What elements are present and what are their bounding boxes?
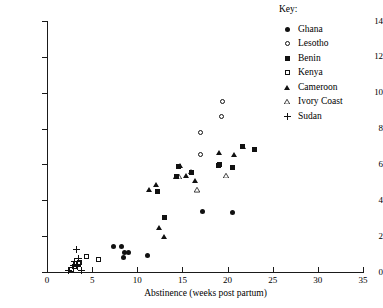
x-tick-label: 10	[124, 276, 150, 285]
legend-item-label: Ivory Coast	[298, 96, 343, 107]
legend-item-kenya[interactable]: Kenya	[280, 66, 383, 81]
data-point-kenya	[84, 254, 89, 259]
data-point-benin	[155, 189, 160, 194]
x-axis-label: Abstinence (weeks post partum)	[47, 288, 364, 299]
legend-item-label: Lesotho	[298, 38, 329, 49]
data-point-benin	[217, 162, 222, 167]
data-point-lesotho	[220, 99, 225, 104]
cropped-title-remnant	[55, 0, 245, 3]
x-tick-label: 20	[215, 276, 241, 285]
legend-item-lesotho[interactable]: Lesotho	[280, 37, 383, 52]
x-tick-label: 35	[350, 276, 376, 285]
data-point-cameroon	[216, 150, 222, 155]
data-point-ghana	[111, 244, 116, 249]
data-point-ghana	[126, 250, 131, 255]
data-point-lesotho	[198, 130, 203, 135]
x-tick-label: 25	[260, 276, 286, 285]
open-triangle-icon	[280, 99, 294, 104]
data-point-cameroon	[192, 178, 198, 183]
y-tick-mark	[42, 272, 47, 273]
legend-item-label: Sudan	[298, 111, 322, 122]
legend-item-benin[interactable]: Benin	[280, 51, 383, 66]
data-point-ivory-coast	[223, 173, 229, 178]
legend-item-ghana[interactable]: Ghana	[280, 22, 383, 37]
legend-item-label: Ghana	[298, 24, 323, 35]
data-point-ghana	[119, 244, 124, 249]
legend-item-label: Kenya	[298, 67, 323, 78]
data-point-cameroon	[188, 169, 194, 174]
x-tick-label: 0	[34, 276, 60, 285]
legend-item-sudan[interactable]: Sudan	[280, 109, 383, 124]
plus-icon	[280, 113, 294, 120]
open-circle-icon	[280, 41, 294, 46]
data-point-ghana	[145, 253, 150, 258]
legend: Key: GhanaLesothoBeninKenyaCameroonIvory…	[280, 4, 383, 124]
legend-title: Key:	[279, 4, 383, 15]
x-tick-label: 30	[305, 276, 331, 285]
data-point-ivory-coast	[176, 174, 182, 179]
data-point-benin	[162, 215, 167, 220]
data-point-cameroon	[177, 163, 183, 168]
filled-triangle-icon	[280, 85, 294, 90]
data-point-cameroon	[146, 187, 152, 192]
data-point-sudan	[73, 246, 80, 253]
data-point-benin	[252, 147, 257, 152]
data-point-kenya	[96, 257, 101, 262]
data-point-sudan	[78, 267, 85, 274]
x-tick-label: 5	[79, 276, 105, 285]
x-tick-label: 15	[169, 276, 195, 285]
data-point-ghana	[230, 210, 235, 215]
data-point-ghana	[121, 255, 126, 260]
data-point-cameroon	[231, 152, 237, 157]
legend-item-ivory-coast[interactable]: Ivory Coast	[280, 95, 383, 110]
legend-item-label: Benin	[298, 53, 321, 64]
filled-circle-icon	[280, 27, 294, 32]
filled-square-icon	[280, 56, 294, 61]
data-point-ghana	[200, 209, 205, 214]
data-point-cameroon	[240, 144, 246, 149]
data-point-cameroon	[156, 225, 162, 230]
legend-item-cameroon[interactable]: Cameroon	[280, 80, 383, 95]
x-tick-mark	[363, 267, 364, 272]
data-point-cameroon	[161, 234, 167, 239]
data-point-ivory-coast	[194, 187, 200, 192]
open-square-icon	[280, 70, 294, 75]
data-point-lesotho	[219, 114, 224, 119]
data-point-lesotho	[198, 152, 203, 157]
x-axis-line	[47, 272, 364, 273]
data-point-cameroon	[153, 182, 159, 187]
scatter-plot-figure: 02468101214 05101520253035 Abstinence (w…	[0, 0, 383, 308]
legend-item-label: Cameroon	[298, 82, 338, 93]
data-point-sudan	[75, 255, 82, 262]
data-point-benin	[230, 165, 235, 170]
